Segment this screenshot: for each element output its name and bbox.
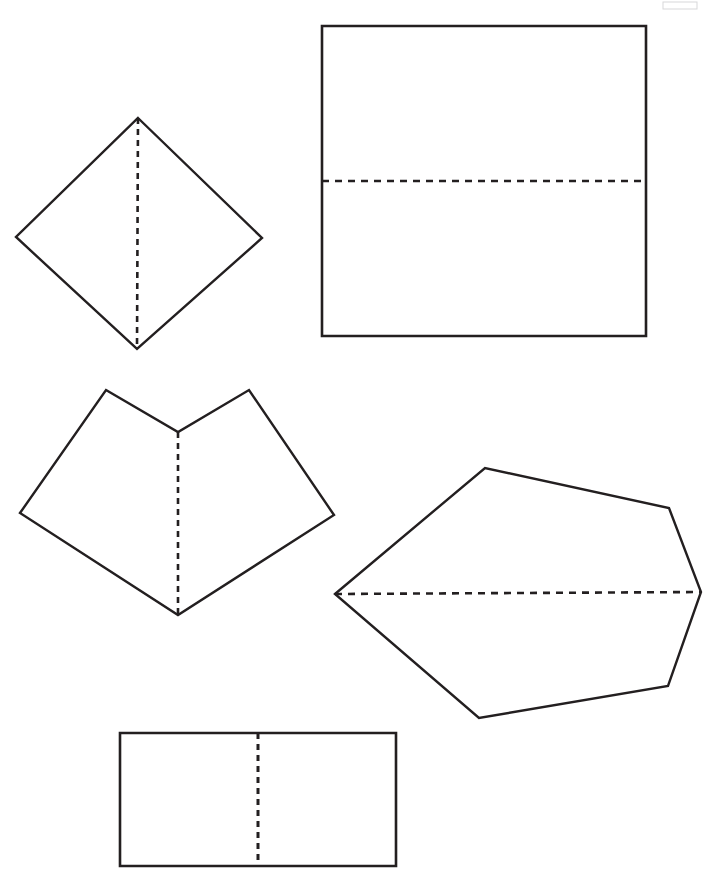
- figure-square[interactable]: [322, 26, 646, 336]
- symmetry-figures-canvas: [0, 0, 726, 880]
- figure-chevron[interactable]: [20, 390, 334, 615]
- figure-sheet: [0, 0, 726, 880]
- page-edge-artifact-group: [663, 2, 697, 9]
- figure-rectangle[interactable]: [120, 733, 396, 866]
- page-edge-artifact: [663, 2, 697, 9]
- figure-hexagon[interactable]: [335, 468, 701, 718]
- figure-diamond[interactable]: [16, 118, 262, 349]
